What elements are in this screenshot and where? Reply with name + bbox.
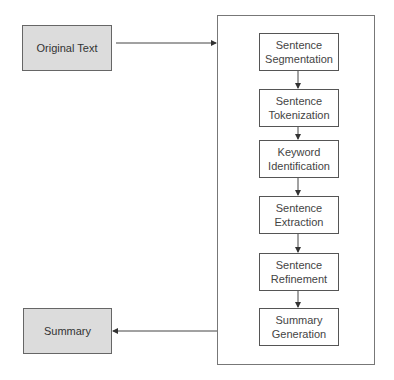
step-label-line1: Sentence (276, 94, 322, 108)
step-sentence-segmentation: Sentence Segmentation (259, 33, 339, 71)
step-label-line1: Sentence (276, 201, 322, 215)
step-sentence-refinement: Sentence Refinement (259, 253, 339, 291)
step-label-line1: Sentence (276, 38, 322, 52)
step-label-line2: Identification (268, 159, 330, 173)
original-text-box: Original Text (22, 25, 112, 71)
step-keyword-identification: Keyword Identification (259, 140, 339, 178)
summary-label: Summary (44, 325, 91, 337)
step-label-line2: Tokenization (268, 108, 329, 122)
step-label-line1: Sentence (276, 258, 322, 272)
step-label-line1: Keyword (278, 145, 321, 159)
step-label-line1: Summary (275, 313, 322, 327)
step-sentence-extraction: Sentence Extraction (259, 196, 339, 234)
step-label-line2: Segmentation (265, 52, 333, 66)
step-label-line2: Extraction (275, 215, 324, 229)
step-summary-generation: Summary Generation (259, 308, 339, 346)
step-label-line2: Refinement (271, 272, 327, 286)
summary-box: Summary (23, 308, 112, 354)
step-sentence-tokenization: Sentence Tokenization (259, 89, 339, 127)
step-label-line2: Generation (272, 327, 326, 341)
original-text-label: Original Text (37, 42, 98, 54)
